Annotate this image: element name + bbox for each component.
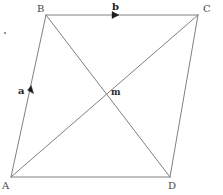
intersection-label-m: m: [111, 88, 121, 97]
vector-label-b: b: [112, 2, 119, 12]
parallelogram-figure: [0, 0, 223, 195]
vertex-label-A: A: [2, 181, 9, 191]
vertex-label-B: B: [37, 4, 44, 14]
vector-label-a: a: [18, 86, 24, 96]
vertex-label-C: C: [203, 4, 211, 14]
diagonal-AC: [11, 15, 198, 177]
vector-b-arrowhead-icon: [112, 12, 119, 19]
diagonal-BD: [46, 15, 170, 177]
edge-AB: [11, 15, 46, 177]
geometry-diagram: B C D A a b m: [0, 0, 223, 195]
stray-dot-mark: [4, 32, 6, 34]
vector-a-arrowhead-icon: [28, 86, 34, 94]
edge-CD: [170, 15, 198, 177]
vertex-label-D: D: [168, 181, 176, 191]
parallelogram-diagonals: [11, 15, 198, 177]
